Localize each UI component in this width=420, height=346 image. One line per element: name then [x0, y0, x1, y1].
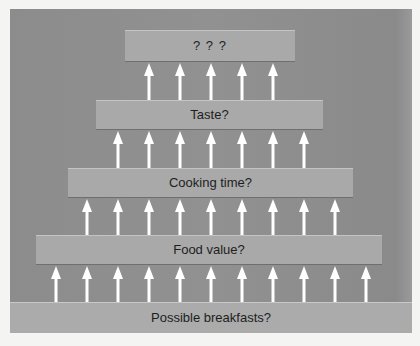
up-arrow-icon — [174, 131, 186, 168]
tier-label: Food value? — [173, 242, 245, 257]
up-arrow-icon — [205, 131, 217, 168]
up-arrow-icon — [298, 199, 310, 235]
up-arrow-icon — [267, 131, 279, 168]
up-arrow-icon — [205, 63, 217, 100]
up-arrow-icon — [112, 266, 124, 302]
up-arrow-icon — [329, 199, 341, 235]
tier-food-value: Food value? — [36, 235, 382, 264]
up-arrow-icon — [267, 266, 279, 302]
up-arrow-icon — [112, 131, 124, 168]
up-arrow-icon — [143, 63, 155, 100]
up-arrow-icon — [236, 199, 248, 235]
up-arrow-icon — [205, 199, 217, 235]
up-arrow-icon — [81, 266, 93, 302]
tier-label: Cooking time? — [169, 175, 252, 190]
up-arrow-icon — [298, 131, 310, 168]
up-arrow-icon — [236, 131, 248, 168]
up-arrow-icon — [143, 131, 155, 168]
tier-label: Possible breakfasts? — [151, 310, 271, 325]
up-arrow-icon — [205, 266, 217, 302]
up-arrow-icon — [298, 266, 310, 302]
up-arrow-icon — [81, 199, 93, 235]
up-arrow-icon — [236, 266, 248, 302]
tier-unknown: ? ? ? — [125, 30, 295, 61]
up-arrow-icon — [174, 266, 186, 302]
up-arrow-icon — [267, 199, 279, 235]
up-arrow-icon — [143, 266, 155, 302]
up-arrow-icon — [174, 199, 186, 235]
tier-label: ? ? ? — [193, 38, 227, 53]
caption-fragment — [12, 336, 122, 342]
up-arrow-icon — [143, 199, 155, 235]
up-arrow-icon — [267, 63, 279, 100]
up-arrow-icon — [236, 63, 248, 100]
up-arrow-icon — [360, 266, 372, 302]
tier-cooking-time: Cooking time? — [68, 168, 353, 197]
up-arrow-icon — [174, 63, 186, 100]
tier-possible-breakfasts: Possible breakfasts? — [10, 302, 412, 333]
up-arrow-icon — [50, 266, 62, 302]
up-arrow-icon — [112, 199, 124, 235]
up-arrow-icon — [329, 266, 341, 302]
tier-taste: Taste? — [96, 100, 323, 129]
tier-label: Taste? — [190, 107, 228, 122]
